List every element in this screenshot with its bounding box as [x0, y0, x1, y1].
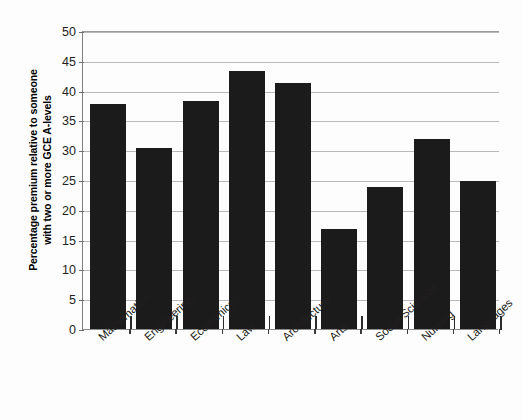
x-tick-mark — [407, 329, 408, 334]
y-tick-label: 35 — [62, 114, 76, 128]
x-tick-mark — [360, 329, 361, 334]
bar-chart-figure: Percentage premium relative to someone w… — [0, 0, 523, 420]
y-tick-mark — [79, 62, 84, 63]
y-gridline — [83, 32, 499, 33]
x-tick-mark — [222, 329, 223, 334]
y-tick-mark — [79, 300, 84, 301]
y-tick-label: 40 — [62, 85, 76, 99]
y-tick-label: 15 — [62, 234, 76, 248]
bar[interactable] — [321, 229, 357, 330]
y-tick-label: 20 — [62, 204, 76, 218]
y-tick-label: 45 — [62, 55, 76, 69]
y-axis-title: Percentage premium relative to someone w… — [20, 20, 60, 320]
y-tick-mark — [79, 211, 84, 212]
bar[interactable] — [90, 104, 126, 330]
x-tick-mark — [268, 329, 269, 334]
x-tick-mark — [175, 329, 176, 334]
y-tick-label: 25 — [62, 174, 76, 188]
y-tick-mark — [79, 151, 84, 152]
bar[interactable] — [460, 181, 496, 330]
y-tick-label: 0 — [69, 323, 76, 337]
y-tick-label: 5 — [69, 293, 76, 307]
y-tick-mark — [79, 270, 84, 271]
y-tick-mark — [79, 181, 84, 182]
bar[interactable] — [229, 71, 265, 330]
x-tick-gap-mark — [269, 316, 271, 330]
x-tick-mark — [453, 329, 454, 334]
y-tick-label: 30 — [62, 144, 76, 158]
x-tick-mark — [129, 329, 130, 334]
y-axis-title-line-2: with two or more GCE A-levels — [40, 95, 54, 245]
bar[interactable] — [367, 187, 403, 330]
y-gridline — [83, 62, 499, 63]
y-tick-mark — [79, 121, 84, 122]
y-tick-label: 50 — [62, 25, 76, 39]
x-tick-mark — [499, 329, 500, 334]
x-tick-gap-mark — [361, 316, 363, 330]
y-tick-mark — [79, 92, 84, 93]
y-tick-mark — [79, 241, 84, 242]
y-tick-label: 10 — [62, 263, 76, 277]
x-tick-mark — [314, 329, 315, 334]
y-tick-mark — [79, 32, 84, 33]
y-axis-title-line-1: Percentage premium relative to someone — [26, 69, 40, 271]
bar[interactable] — [275, 83, 311, 330]
